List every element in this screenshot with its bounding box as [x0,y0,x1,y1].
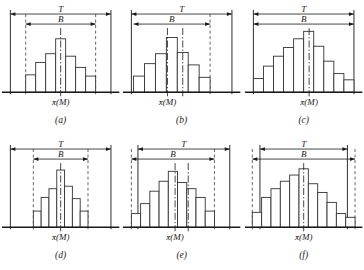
histogram-bar [72,199,80,228]
tolerance-label: T [179,4,185,14]
histogram-bar [80,211,88,227]
panel-c: TBx̄(M)(c) [243,0,364,135]
spread-label: B [301,149,307,159]
histogram-bar [273,56,283,92]
histogram-bar [169,172,178,228]
histogram-bar [141,204,150,228]
histogram-bar [199,77,210,92]
histogram-bars [134,38,211,93]
panel-a: TBx̄(M)(a) [0,0,121,135]
spread-label: B [58,14,64,24]
histogram-bar [283,47,293,92]
histogram-bar [253,79,263,93]
histogram-bar [36,62,46,92]
histogram-bar [271,189,280,228]
histogram-bar [327,203,336,228]
histogram-bar [317,193,326,228]
histogram-bar [65,187,73,228]
spread-label: B [170,149,176,159]
histogram-bar [323,61,333,92]
histogram-bar [41,198,49,228]
histogram-bar [178,183,187,228]
histogram-bar [132,214,141,228]
panel-d: TBx̄(M)(d) [0,135,121,270]
histogram-bar [156,54,167,93]
panel-caption: (f) [299,251,308,262]
histogram-bar [86,76,96,92]
axis-label: x̄(M) [299,97,318,107]
panel-f: TBx̄(M)(f) [243,135,364,270]
spread-label: B [169,14,175,24]
histogram-bar [145,64,156,93]
histogram-bar [280,182,289,228]
histogram-bar [289,175,298,227]
tolerance-label: T [58,139,64,149]
histogram-bar [252,213,261,228]
histogram-bars [132,172,215,228]
histogram-bar [333,74,343,93]
histogram-bar [33,211,41,227]
axis-label: x̄(M) [51,97,70,107]
panel-caption: (b) [176,115,187,126]
histogram-bar [336,214,345,228]
panel-b: TBx̄(M)(b) [121,0,242,135]
histogram-bar [293,39,303,92]
spread-label: B [301,14,307,24]
tolerance-label: T [301,139,307,149]
spread-label: B [58,149,64,159]
axis-label: x̄(M) [51,233,70,243]
histogram-bar [308,184,317,228]
histogram-bar [167,38,178,93]
histogram-bar [159,182,168,228]
panel-e: TBx̄(M)(e) [121,135,242,270]
histogram-bar [303,31,313,92]
histogram-bar [313,46,323,92]
axis-label: x̄(M) [294,233,313,243]
histogram-bar [49,189,57,228]
histogram-bar [46,54,56,93]
histogram-bar [26,75,36,92]
histogram-bar [66,56,76,92]
capability-figure: TBx̄(M)(a)TBx̄(M)(b)TBx̄(M)(c)TBx̄(M)(d)… [0,0,364,270]
axis-label: x̄(M) [166,233,185,243]
tolerance-label: T [301,4,307,14]
axis-label: x̄(M) [158,97,177,107]
histogram-bar [189,65,200,92]
histogram-bar [344,80,354,92]
histogram-bar [196,198,205,228]
panel-caption: (c) [298,115,309,126]
histogram-bar [263,66,273,92]
panel-caption: (d) [55,251,66,262]
histogram-bar [76,67,86,92]
histogram-bars [253,31,354,92]
histogram-bar [150,192,159,228]
histogram-bar [134,76,145,92]
histogram-bar [261,198,270,228]
panel-caption: (a) [55,115,66,126]
tolerance-label: T [182,139,188,149]
panel-caption: (e) [177,251,188,262]
histogram-bar [206,211,215,227]
histogram-bar [345,218,354,228]
tolerance-label: T [58,4,64,14]
